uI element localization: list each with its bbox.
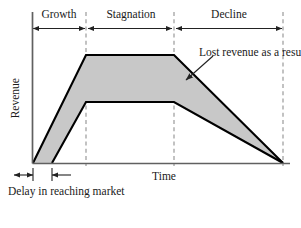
delay-annotation-label: Delay in reaching market xyxy=(8,185,88,197)
phase-label-stagnation: Stagnation xyxy=(88,8,174,20)
revenue-delay-figure: Growth Stagnation Decline Revenue Time D… xyxy=(0,0,301,228)
lost-revenue-leader-arrow xyxy=(186,56,213,80)
lost-revenue-annotation-label: Lost revenue as a result of delay xyxy=(199,46,297,58)
lost-revenue-region xyxy=(33,55,283,163)
phase-label-decline: Decline xyxy=(176,8,282,20)
phase-label-growth: Growth xyxy=(32,8,86,20)
y-axis-label: Revenue xyxy=(9,66,21,130)
x-axis-label: Time xyxy=(133,170,195,182)
